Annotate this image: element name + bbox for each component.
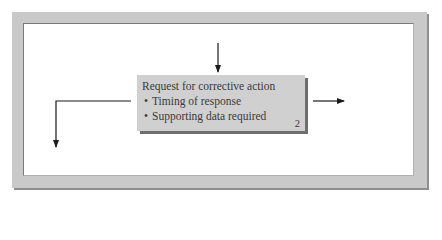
bullet-text: Timing of response [152,95,241,107]
process-box-corrective-action: Request for corrective action •Timing of… [137,75,305,131]
process-box-bullets: •Timing of response •Supporting data req… [142,94,300,124]
arrow-outgoing-left-elbow [56,101,131,147]
process-box-number: 2 [295,118,300,129]
bullet-icon: • [144,94,152,109]
bullet-item: •Supporting data required [142,109,300,124]
bullet-item: •Timing of response [142,94,300,109]
process-box-title: Request for corrective action [142,79,300,94]
bullet-icon: • [144,109,152,124]
bullet-text: Supporting data required [152,110,266,122]
